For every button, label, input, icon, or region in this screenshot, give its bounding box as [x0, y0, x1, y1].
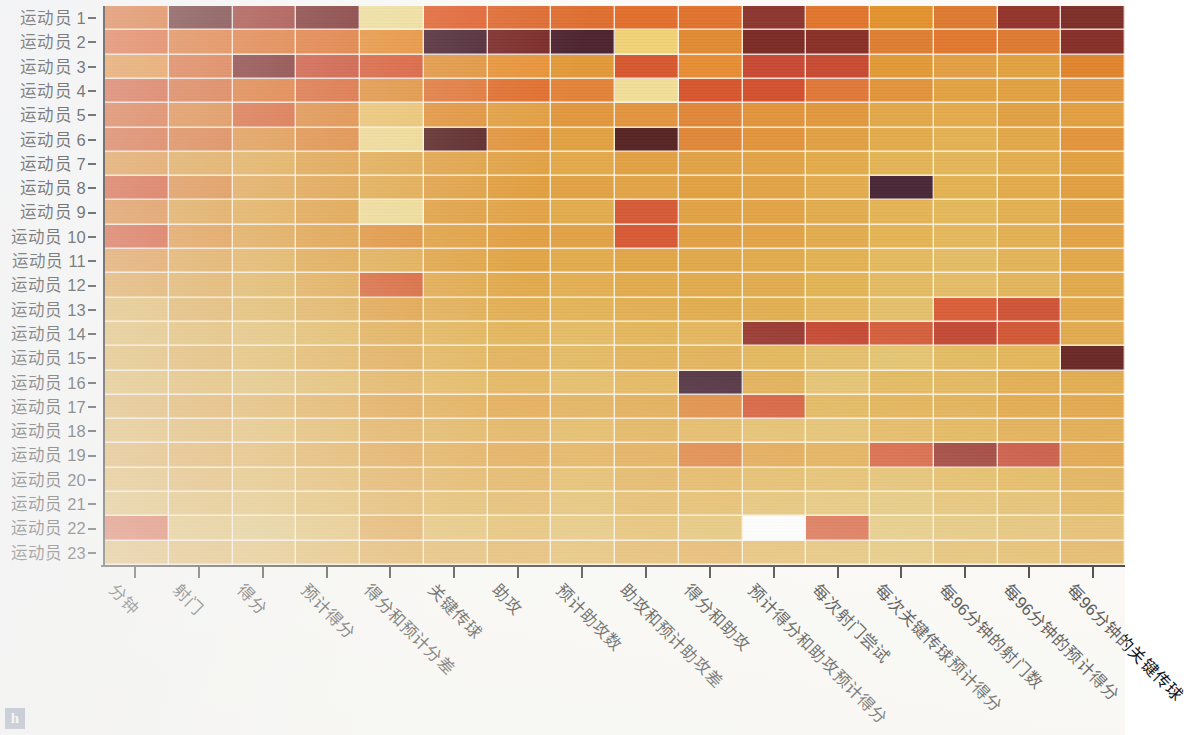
heatmap-cell [870, 468, 934, 492]
heatmap-cell [169, 6, 233, 30]
heatmap-cell [233, 103, 297, 127]
x-axis-label: 关键传球 [423, 578, 489, 644]
heatmap-cell [233, 541, 297, 565]
heatmap-cell [424, 128, 488, 152]
heatmap-cell [488, 176, 552, 200]
heatmap-cell [296, 516, 360, 540]
heatmap-cell [360, 541, 424, 565]
heatmap-cell [998, 128, 1062, 152]
x-axis-tick [837, 567, 839, 578]
heatmap-cell [743, 128, 807, 152]
x-axis-tick [900, 567, 902, 578]
heatmap-cell [870, 516, 934, 540]
heatmap-cell [169, 249, 233, 273]
heatmap-cell [233, 468, 297, 492]
y-axis-tick [88, 187, 96, 189]
y-axis-tick [88, 333, 96, 335]
heatmap-cell [743, 6, 807, 30]
x-axis-label: 得分 [232, 578, 273, 619]
y-axis-label: 运动员 17 [11, 395, 86, 419]
heatmap-cell [1061, 516, 1125, 540]
heatmap-cell [743, 541, 807, 565]
heatmap-cell [105, 468, 169, 492]
heatmap-cell [424, 298, 488, 322]
heatmap-cell [296, 176, 360, 200]
heatmap-cell [233, 30, 297, 54]
y-axis-tick [88, 430, 96, 432]
heatmap-cell [679, 492, 743, 516]
heatmap-cell [934, 492, 998, 516]
heatmap-cell [998, 6, 1062, 30]
heatmap-cell [488, 492, 552, 516]
y-axis-label: 运动员 10 [11, 225, 86, 249]
y-axis-tick [88, 212, 96, 214]
heatmap-cell [679, 79, 743, 103]
x-axis-tick [773, 567, 775, 578]
heatmap-cell [169, 55, 233, 79]
y-axis-label: 运动员 19 [11, 443, 86, 467]
heatmap-cell [105, 322, 169, 346]
heatmap-cell [105, 298, 169, 322]
y-axis-label: 运动员 6 [20, 128, 86, 152]
heatmap-cell [743, 443, 807, 467]
heatmap-cell [806, 443, 870, 467]
heatmap-cell [743, 468, 807, 492]
heatmap-cell [806, 128, 870, 152]
heatmap-cell [424, 541, 488, 565]
heatmap-cell [998, 30, 1062, 54]
heatmap-cell [233, 273, 297, 297]
heatmap-cell [169, 128, 233, 152]
heatmap-cell [679, 443, 743, 467]
x-axis-tick [389, 567, 391, 578]
heatmap-cell [551, 6, 615, 30]
heatmap-cell [424, 6, 488, 30]
heatmap-cell [105, 273, 169, 297]
y-axis-tick [88, 382, 96, 384]
heatmap-cell [1061, 322, 1125, 346]
y-axis-label: 运动员 4 [20, 79, 86, 103]
heatmap-plot-area [103, 6, 1125, 565]
x-axis-tick [262, 567, 264, 578]
y-axis-label: 运动员 23 [11, 541, 86, 565]
heatmap-cell [424, 200, 488, 224]
heatmap-cell [1061, 346, 1125, 370]
heatmap-cell [551, 541, 615, 565]
heatmap-cell [615, 249, 679, 273]
heatmap-cell [360, 30, 424, 54]
heatmap-cell [806, 468, 870, 492]
heatmap-cell [169, 225, 233, 249]
heatmap-cell [615, 492, 679, 516]
heatmap-cell [743, 200, 807, 224]
heatmap-cell [551, 468, 615, 492]
heatmap-cell [296, 200, 360, 224]
heatmap-cell [551, 128, 615, 152]
y-axis-labels: 运动员 1运动员 2运动员 3运动员 4运动员 5运动员 6运动员 7运动员 8… [0, 6, 96, 565]
heatmap-cell [169, 322, 233, 346]
y-axis-tick [88, 357, 96, 359]
x-axis-label: 预计得分 [296, 578, 362, 644]
heatmap-cell [551, 79, 615, 103]
heatmap-cell [551, 249, 615, 273]
heatmap-cell [488, 128, 552, 152]
heatmap-cell [1061, 225, 1125, 249]
heatmap-cell [360, 492, 424, 516]
heatmap-cell [296, 468, 360, 492]
heatmap-cell [998, 298, 1062, 322]
y-axis-tick [88, 309, 96, 311]
heatmap-cell [934, 516, 998, 540]
heatmap-cell [551, 419, 615, 443]
heatmap-cell [233, 79, 297, 103]
heatmap-cell [233, 128, 297, 152]
heatmap-cell [615, 371, 679, 395]
heatmap-cell [806, 152, 870, 176]
heatmap-cell [296, 249, 360, 273]
heatmap-cell [679, 6, 743, 30]
heatmap-cell [1061, 371, 1125, 395]
heatmap-cell [105, 55, 169, 79]
heatmap-cell [615, 128, 679, 152]
panel-label-badge: h [5, 708, 25, 729]
heatmap-cell [424, 468, 488, 492]
y-axis-label: 运动员 14 [11, 322, 86, 346]
heatmap-cell [870, 322, 934, 346]
heatmap-cell [488, 541, 552, 565]
